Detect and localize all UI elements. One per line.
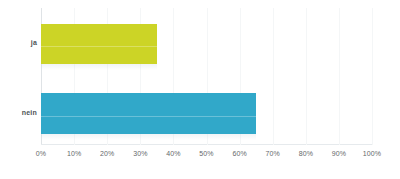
x-tick-label: 60% xyxy=(232,150,246,157)
x-tick-label: 40% xyxy=(166,150,180,157)
x-tick-label: 80% xyxy=(299,150,313,157)
category-label-ja: ja xyxy=(1,39,37,46)
x-tick-label: 50% xyxy=(199,150,213,157)
x-tick-label: 100% xyxy=(363,150,381,157)
bar-ja[interactable] xyxy=(41,24,157,64)
category-label-nein: nein xyxy=(1,109,37,116)
gridline xyxy=(372,8,373,145)
x-tick-label: 20% xyxy=(100,150,114,157)
x-tick-label: 10% xyxy=(67,150,81,157)
x-tick-label: 0% xyxy=(36,150,46,157)
plot-area xyxy=(41,8,372,145)
bar-row xyxy=(41,93,372,134)
bar-row xyxy=(41,24,372,64)
x-axis-tick-labels: 0%10%20%30%40%50%60%70%80%90%100% xyxy=(41,150,372,164)
x-tick-label: 90% xyxy=(332,150,346,157)
bar-shadow xyxy=(41,134,256,140)
bar-shadow xyxy=(41,64,157,70)
x-tick-label: 70% xyxy=(266,150,280,157)
bar-nein[interactable] xyxy=(41,93,256,134)
category-axis-labels: janein xyxy=(0,8,37,145)
bar-chart: janein 0%10%20%30%40%50%60%70%80%90%100% xyxy=(0,0,400,179)
x-tick-label: 30% xyxy=(133,150,147,157)
